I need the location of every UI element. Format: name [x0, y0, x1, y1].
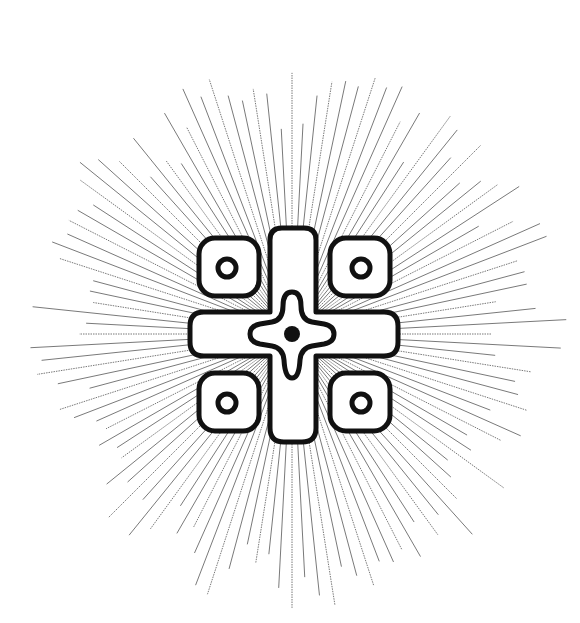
sunburst-ray	[306, 145, 481, 320]
center-dot	[284, 326, 300, 342]
ring-bottom-right	[352, 394, 370, 412]
sunburst-emblem-icon	[0, 0, 580, 623]
emblem-canvas	[0, 0, 580, 623]
ring-top-right	[352, 259, 370, 277]
ring-bottom-left	[218, 394, 236, 412]
ring-top-left	[218, 259, 236, 277]
